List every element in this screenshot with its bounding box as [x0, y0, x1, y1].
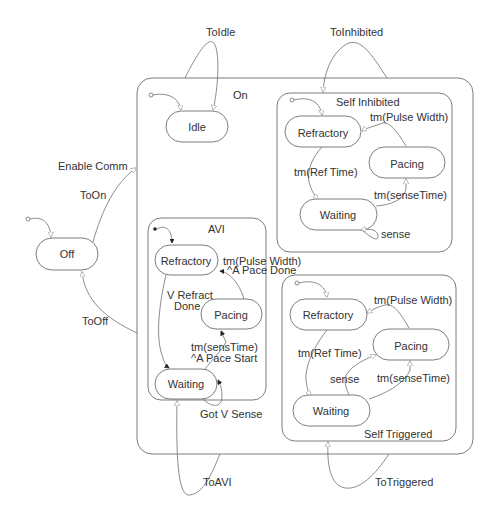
si-pacing-label: Pacing — [390, 158, 424, 170]
to-idle-label: ToIdle — [206, 26, 235, 38]
to-off-label: ToOff — [82, 315, 109, 327]
to-idle-transition[interactable] — [185, 42, 218, 110]
st-refractory-state[interactable]: Refractory — [290, 299, 367, 330]
to-triggered-label: ToTriggered — [375, 476, 433, 488]
st-pulse-width-transition[interactable] — [367, 305, 409, 328]
idle-state[interactable]: Idle — [149, 93, 228, 142]
avi-waiting-label: Waiting — [168, 378, 204, 390]
si-pacing-state[interactable]: Pacing — [369, 147, 445, 178]
self-triggered-initial-transition — [299, 282, 327, 297]
avi-waiting-state[interactable]: Waiting — [155, 369, 217, 399]
avi-got-v-sense-label: Got V Sense — [200, 408, 262, 420]
si-sense-time-label: tm(senseTime) — [374, 189, 447, 201]
st-sense-label: sense — [330, 373, 359, 385]
st-ref-time-label: tm(Ref Time) — [298, 347, 362, 359]
self-inhibited-label: Self Inhibited — [336, 96, 400, 108]
st-sense-time-label: tm(senseTime) — [377, 372, 450, 384]
st-pacing-label: Pacing — [394, 340, 428, 352]
avi-pacing-state[interactable]: Pacing — [201, 299, 262, 329]
st-pacing-state[interactable]: Pacing — [373, 329, 449, 360]
off-initial-transition — [30, 218, 51, 237]
self-triggered-state[interactable]: Self Triggered Refractory Pacing Waiting… — [282, 275, 456, 441]
si-waiting-state[interactable]: Waiting — [300, 199, 377, 230]
to-on-transition[interactable] — [93, 168, 136, 242]
on-label: On — [233, 89, 248, 101]
si-ref-time-label: tm(Ref Time) — [294, 166, 358, 178]
idle-initial-transition — [153, 94, 181, 110]
avi-label: AVI — [208, 223, 225, 235]
st-ref-time-transition[interactable] — [306, 330, 327, 395]
st-pulse-width-label: tm(Pulse Width) — [374, 294, 452, 306]
idle-label: Idle — [188, 121, 206, 133]
si-sense-label: sense — [381, 228, 410, 240]
si-waiting-label: Waiting — [320, 209, 356, 221]
self-inhibited-initial-transition — [294, 99, 322, 115]
avi-initial-transition — [157, 227, 172, 243]
avi-pulse-label-2: ^A Pace Done — [227, 264, 296, 276]
self-inhibited-state[interactable]: Self Inhibited Refractory Pacing Waiting… — [277, 93, 452, 252]
si-refractory-label: Refractory — [298, 127, 349, 139]
avi-refractory-label: Refractory — [161, 255, 212, 267]
avi-state[interactable]: AVI Refractory Pacing Waiting V Refract … — [148, 218, 301, 420]
si-refractory-state[interactable]: Refractory — [285, 116, 361, 147]
to-on-label: ToOn — [80, 189, 106, 201]
self-triggered-label: Self Triggered — [364, 428, 432, 440]
si-pulse-width-label: tm(Pulse Width) — [370, 111, 448, 123]
to-inhibited-transition[interactable] — [323, 42, 387, 92]
st-waiting-label: Waiting — [313, 405, 349, 417]
self-triggered-initial-pseudostate — [295, 281, 299, 285]
self-inhibited-initial-pseudostate — [290, 98, 294, 102]
to-avi-label: ToAVI — [203, 476, 232, 488]
avi-initial-pseudostate — [153, 227, 157, 231]
avi-refractory-state[interactable]: Refractory — [155, 245, 218, 275]
st-waiting-state[interactable]: Waiting — [293, 395, 370, 426]
statechart-diagram: On Off ToOn Enable Comm ToOff Idle ToIdl… — [0, 0, 497, 519]
idle-initial-pseudostate — [149, 93, 153, 97]
avi-pacing-label: Pacing — [214, 309, 248, 321]
off-state[interactable]: Off — [26, 217, 98, 270]
avi-refract-done-label-2: Done — [174, 300, 200, 312]
to-inhibited-label: ToInhibited — [330, 26, 383, 38]
off-initial-pseudostate — [26, 217, 30, 221]
si-pulse-width-transition[interactable] — [362, 123, 406, 146]
off-label: Off — [60, 248, 75, 260]
enable-comm-label: Enable Comm — [58, 160, 128, 172]
si-sense-transition[interactable] — [361, 229, 378, 239]
avi-sens-label-2: ^A Pace Start — [191, 352, 257, 364]
st-refractory-label: Refractory — [303, 309, 354, 321]
